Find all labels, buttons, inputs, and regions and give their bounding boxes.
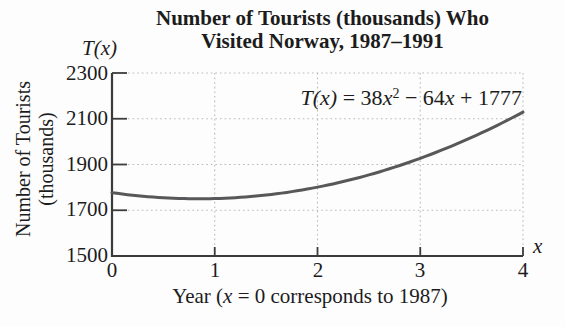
x-tick-label: 4 [503, 259, 543, 281]
equation-variable: x [445, 85, 455, 110]
equation-text: + 1777 [455, 85, 522, 110]
equation-exponent: 2 [392, 86, 399, 101]
chart-title: Number of Tourists (thousands) Who Visit… [100, 7, 545, 53]
x-tick-label: 3 [400, 259, 440, 281]
y-tick-label: 1900 [66, 153, 108, 175]
equation-variable: x [383, 85, 393, 110]
x-axis-var-label: x [533, 234, 542, 259]
equation-text: = 38 [337, 85, 382, 110]
equation-text: − 64 [399, 85, 444, 110]
y-axis-function-label: T(x) [82, 36, 117, 61]
x-tick-label: 2 [298, 259, 338, 281]
x-axis-label-prefix: Year ( [172, 284, 223, 308]
chart-title-line2: Visited Norway, 1987–1991 [100, 30, 545, 53]
x-axis-label-suffix: = 0 corresponds to 1987) [232, 284, 447, 308]
x-tick-label: 0 [92, 259, 132, 281]
x-axis-label: Year (x = 0 corresponds to 1987) [60, 284, 560, 309]
y-tick-label: 1700 [66, 198, 108, 220]
y-tick-label: 2100 [66, 107, 108, 129]
chart: Number of Tourists (thousands) Who Visit… [0, 0, 565, 327]
y-tick-label: 2300 [66, 62, 108, 84]
equation-function: T(x) [301, 85, 338, 110]
y-axis-label-line1: Number of Tourists [12, 54, 35, 264]
y-axis-label: Number of Tourists (thousands) [12, 54, 58, 264]
x-tick-label: 1 [195, 259, 235, 281]
chart-title-line1: Number of Tourists (thousands) Who [100, 7, 545, 30]
y-axis-label-line2: (thousands) [35, 54, 58, 264]
model-equation: T(x) = 38x2 − 64x + 1777 [301, 85, 522, 111]
